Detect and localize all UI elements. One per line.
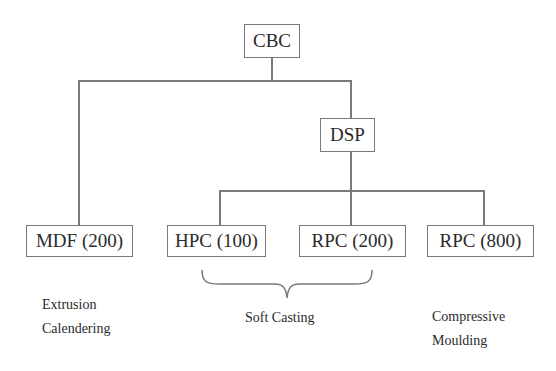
node-rpc800-label: RPC (800) xyxy=(440,230,522,252)
curly-brace-icon xyxy=(199,268,375,300)
node-hpc: HPC (100) xyxy=(167,225,266,257)
label-calendering: Calendering xyxy=(42,317,110,341)
label-extrusion: Extrusion xyxy=(42,293,110,317)
node-rpc800: RPC (800) xyxy=(427,225,534,257)
connector-top-horizontal xyxy=(78,80,352,82)
node-cbc: CBC xyxy=(244,24,300,58)
connector-to-rpc800 xyxy=(483,190,485,225)
label-soft-casting: Soft Casting xyxy=(245,306,315,330)
label-extrusion-calendering: Extrusion Calendering xyxy=(42,293,110,341)
node-dsp: DSP xyxy=(320,118,375,152)
node-mdf: MDF (200) xyxy=(26,225,133,257)
node-mdf-label: MDF (200) xyxy=(36,230,123,252)
connector-to-hpc xyxy=(219,190,221,225)
connector-dsp-down xyxy=(350,152,352,225)
node-rpc200-label: RPC (200) xyxy=(312,230,394,252)
label-compressive-moulding: Compressive Moulding xyxy=(432,305,505,353)
node-dsp-label: DSP xyxy=(330,124,365,146)
connector-cbc-down xyxy=(271,58,273,81)
node-hpc-label: HPC (100) xyxy=(175,230,258,252)
connector-to-mdf xyxy=(78,80,80,225)
connector-dsp-horizontal xyxy=(219,190,484,192)
connector-to-dsp xyxy=(350,80,352,119)
node-cbc-label: CBC xyxy=(253,30,291,52)
node-rpc200: RPC (200) xyxy=(299,225,406,257)
label-compressive: Compressive xyxy=(432,305,505,329)
label-moulding: Moulding xyxy=(432,329,505,353)
